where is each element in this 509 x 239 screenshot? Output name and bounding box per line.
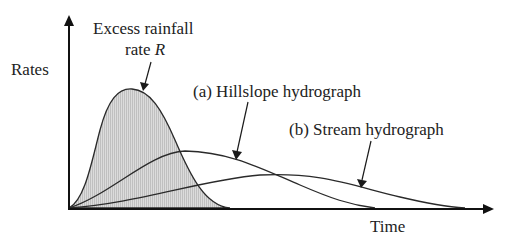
excess-rainfall-prefix: rate (125, 40, 155, 59)
excess-rainfall-curve (69, 89, 230, 208)
stream-label: (b) Stream hydrograph (289, 120, 444, 139)
y-axis-arrow-icon (64, 15, 74, 26)
y-axis-label: Rates (11, 60, 49, 79)
excess-rainfall-label-line2: rate R (125, 40, 165, 59)
stream-arrow-line (362, 141, 371, 180)
x-axis-label: Time (370, 217, 405, 236)
x-axis-arrow-icon (483, 204, 494, 214)
excess-arrow-icon (140, 82, 149, 91)
rainfall-symbol: R (155, 40, 165, 59)
hillslope-arrow-line (237, 102, 248, 152)
excess-arrow-line (145, 62, 151, 84)
hillslope-label: (a) Hillslope hydrograph (193, 82, 361, 101)
excess-rainfall-label-line1: Excess rainfall (93, 19, 194, 38)
